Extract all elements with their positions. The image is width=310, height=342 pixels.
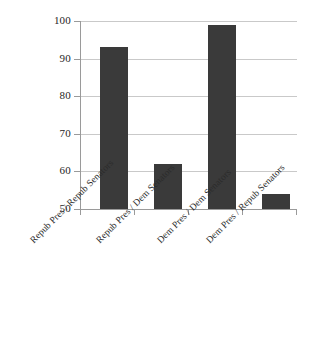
y-tick-label-70: 70: [31, 128, 71, 139]
gridline-100: [80, 21, 297, 22]
bar-chart: 100 90 80 70 60 50 Repub Pres / Repub Se…: [0, 0, 310, 342]
y-tick-label-90: 90: [31, 53, 71, 64]
y-tick-90: [74, 59, 80, 60]
y-tick-label-100: 100: [31, 15, 71, 26]
y-axis-line: [80, 21, 81, 210]
plot-area: [80, 21, 297, 209]
y-tick-label-60: 60: [31, 165, 71, 176]
bar-dem-pres-repub-senators: [262, 194, 290, 209]
bar-repub-pres-dem-senators: [154, 164, 182, 209]
y-tick-70: [74, 134, 80, 135]
x-tick-2: [188, 210, 189, 215]
bar-repub-pres-repub-senators: [100, 47, 128, 209]
x-tick-3: [242, 210, 243, 215]
y-tick-60: [74, 171, 80, 172]
y-tick-100: [74, 21, 80, 22]
x-tick-1: [134, 210, 135, 215]
x-tick-4: [296, 210, 297, 215]
bar-dem-pres-dem-senators: [208, 25, 236, 209]
x-tick-0: [80, 210, 81, 215]
y-tick-80: [74, 96, 80, 97]
y-tick-label-50: 50: [31, 203, 71, 214]
y-tick-label-80: 80: [31, 90, 71, 101]
